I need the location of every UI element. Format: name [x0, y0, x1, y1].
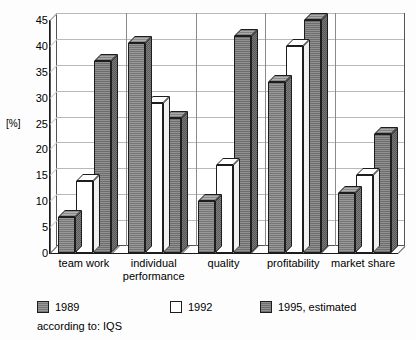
- plot-area: [49, 13, 405, 253]
- bar-chart: [%] 454035302520151050 team workindividu…: [0, 0, 416, 296]
- y-tick-label: 30: [24, 93, 48, 104]
- legend-label: 1989: [55, 301, 79, 313]
- bar: [268, 82, 285, 253]
- y-tick-label: 40: [24, 41, 48, 52]
- bar-side-face: [93, 174, 100, 253]
- legend-item: 1989: [37, 301, 79, 313]
- y-axis-tick-labels: 454035302520151050: [24, 0, 48, 296]
- bar-side-face: [215, 194, 222, 253]
- legend-swatch: [37, 301, 49, 313]
- legend-item: 1995, estimated: [260, 301, 356, 313]
- bar-side-face: [75, 210, 82, 253]
- legend-label: 1995, estimated: [278, 301, 356, 313]
- category-separator: [335, 13, 336, 246]
- y-axis-label: [%]: [6, 118, 20, 129]
- category-separator: [126, 13, 127, 246]
- bar-front-face: [128, 43, 145, 253]
- source-note: according to: IQS: [37, 320, 122, 332]
- y-tick-label: 10: [24, 196, 48, 207]
- depth-line-bottom-right: [398, 246, 406, 254]
- bar-front-face: [198, 201, 215, 253]
- bar-side-face: [285, 75, 292, 253]
- category-separator: [196, 13, 197, 246]
- legend-item: 1992: [170, 301, 212, 313]
- bar: [58, 217, 75, 253]
- bar-side-face: [181, 111, 188, 253]
- y-tick-label: 25: [24, 119, 48, 130]
- y-tick-label: 5: [24, 222, 48, 233]
- category-label: market share: [322, 257, 404, 270]
- legend: 198919921995, estimated: [0, 299, 416, 321]
- category-separator: [265, 13, 266, 246]
- y-axis-line-shadow: [50, 20, 51, 253]
- y-tick-label: 15: [24, 170, 48, 181]
- category-label-line: market share: [322, 257, 404, 270]
- bar-side-face: [321, 13, 328, 253]
- bar-front-face: [58, 217, 75, 253]
- bar-side-face: [303, 39, 310, 253]
- bar-side-face: [233, 158, 240, 253]
- bar: [338, 193, 355, 253]
- bar-side-face: [111, 54, 118, 253]
- bar-side-face: [355, 186, 362, 253]
- bar-side-face: [163, 96, 170, 253]
- bar-side-face: [145, 36, 152, 253]
- bar: [128, 43, 145, 253]
- gridline: [57, 13, 404, 14]
- category-label-line: performance: [113, 270, 195, 283]
- y-tick-label: 45: [24, 15, 48, 26]
- bar-side-face: [251, 29, 258, 253]
- chart-page: [%] 454035302520151050 team workindividu…: [0, 0, 416, 340]
- legend-swatch: [260, 301, 272, 313]
- bar-front-face: [268, 82, 285, 253]
- bar: [198, 201, 215, 253]
- legend-swatch: [170, 301, 182, 313]
- bar-side-face: [373, 168, 380, 253]
- bar-front-face: [338, 193, 355, 253]
- x-axis-line: [49, 253, 398, 254]
- legend-label: 1992: [188, 301, 212, 313]
- bar-side-face: [391, 127, 398, 253]
- gridline: [57, 39, 404, 40]
- y-tick-label: 35: [24, 67, 48, 78]
- y-tick-label: 20: [24, 144, 48, 155]
